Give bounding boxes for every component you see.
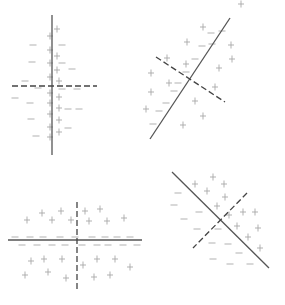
plus-mark: [121, 215, 127, 222]
plus-mark: [164, 55, 170, 62]
plus-mark: [229, 56, 235, 63]
plus-mark: [216, 65, 222, 72]
plus-mark: [107, 272, 113, 279]
plus-mark: [28, 258, 34, 265]
plus-mark: [184, 39, 190, 46]
plus-mark: [192, 98, 198, 105]
plus-mark: [24, 217, 30, 224]
plus-mark: [54, 26, 60, 33]
plus-mark: [228, 42, 234, 49]
plus-mark: [49, 217, 55, 224]
plus-mark: [68, 217, 74, 224]
plus-mark: [245, 234, 251, 241]
plus-mark: [86, 218, 92, 225]
plus-mark: [210, 174, 216, 181]
plus-mark: [240, 209, 246, 216]
plus-mark: [166, 80, 172, 87]
plus-mark: [143, 106, 149, 113]
plus-mark: [56, 117, 62, 124]
plus-mark: [192, 181, 198, 188]
panel-top-left: [12, 15, 98, 155]
plus-mark: [212, 84, 218, 91]
plus-mark: [54, 53, 60, 60]
plus-mark: [234, 223, 240, 230]
plus-mark: [148, 89, 154, 96]
diagram-canvas: [0, 0, 285, 305]
plus-mark: [82, 208, 88, 215]
plus-mark: [104, 218, 110, 225]
plus-mark: [183, 61, 189, 68]
plus-mark: [112, 256, 118, 263]
panel-bottom-left: [8, 202, 142, 292]
plus-mark: [22, 272, 28, 279]
plus-mark: [148, 70, 154, 77]
plus-mark: [200, 24, 206, 31]
plus-mark: [91, 274, 97, 281]
plus-mark: [56, 78, 62, 85]
plus-mark: [58, 208, 64, 215]
plus-mark: [94, 256, 100, 263]
plus-mark: [222, 194, 228, 201]
plus-mark: [180, 122, 186, 129]
plus-mark: [257, 245, 263, 252]
plus-mark: [54, 67, 60, 74]
plus-mark: [221, 181, 227, 188]
plus-mark: [41, 256, 47, 263]
plus-mark: [56, 105, 62, 112]
plus-mark: [214, 203, 220, 210]
plus-mark: [252, 209, 258, 216]
plus-mark: [97, 206, 103, 213]
plus-mark: [255, 225, 261, 232]
panel-top-right: [143, 1, 244, 140]
plus-mark: [56, 129, 62, 136]
plus-mark: [204, 188, 210, 195]
plus-mark: [200, 113, 206, 120]
plus-mark: [56, 94, 62, 101]
plus-mark: [59, 256, 65, 263]
plus-mark: [238, 1, 244, 8]
panel-bottom-right: [171, 172, 270, 268]
plus-mark: [63, 275, 69, 282]
plus-mark: [39, 210, 45, 217]
plus-mark: [127, 264, 133, 271]
dashed-perpendicular-line: [156, 57, 225, 102]
plus-mark: [45, 269, 51, 276]
plus-mark: [80, 262, 86, 269]
